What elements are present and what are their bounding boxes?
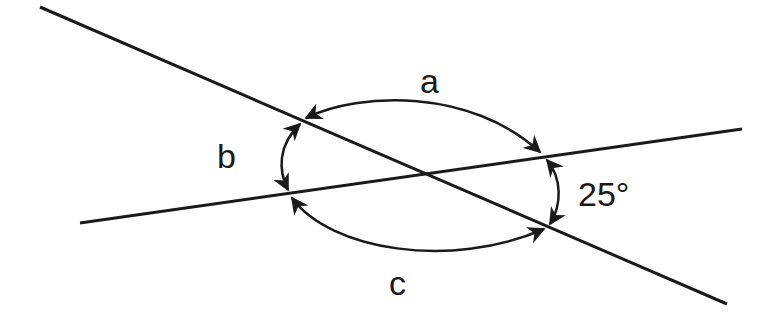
- intersecting-lines-diagram: a b c 25°: [0, 0, 779, 321]
- label-25-degrees: 25°: [578, 175, 629, 213]
- arc-b: [282, 124, 300, 190]
- line-2: [80, 129, 742, 223]
- label-b: b: [217, 137, 236, 175]
- arc-a: [306, 100, 540, 152]
- arc-c: [292, 198, 544, 251]
- label-c: c: [389, 264, 406, 302]
- arc-25-degrees: [547, 160, 559, 224]
- line-1: [40, 7, 727, 304]
- label-a: a: [420, 62, 439, 100]
